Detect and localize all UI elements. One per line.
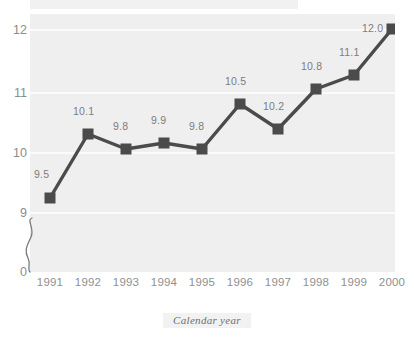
marker-1995 bbox=[197, 144, 208, 155]
data-label-1998: 10.8 bbox=[301, 60, 322, 72]
marker-1994 bbox=[159, 138, 170, 149]
line-chart-figure: 12 11 10 9 0 9.5 10.1 9.8 9.9 9.8 10.5 1… bbox=[0, 0, 414, 339]
x-tick-label-2000: 2000 bbox=[370, 276, 414, 288]
marker-1998 bbox=[311, 84, 322, 95]
data-label-1994: 9.9 bbox=[151, 114, 166, 126]
x-axis-title-text: Calendar year bbox=[163, 313, 251, 328]
data-label-2000: 12.0 bbox=[362, 22, 383, 34]
data-label-1993: 9.8 bbox=[113, 120, 128, 132]
data-label-1992: 10.1 bbox=[73, 105, 94, 117]
data-label-1996: 10.5 bbox=[225, 75, 246, 87]
data-label-1999: 11.1 bbox=[339, 46, 359, 58]
y-tick-label-12: 12 bbox=[3, 23, 27, 37]
data-label-1995: 9.8 bbox=[189, 120, 204, 132]
marker-1996 bbox=[235, 99, 246, 110]
x-axis-title: Calendar year bbox=[0, 310, 414, 328]
data-label-1997: 10.2 bbox=[263, 100, 284, 112]
y-tick-label-10: 10 bbox=[3, 146, 27, 160]
marker-1993 bbox=[121, 144, 132, 155]
marker-1999 bbox=[349, 70, 360, 81]
marker-2000 bbox=[387, 24, 396, 35]
marker-1992 bbox=[83, 129, 94, 140]
y-tick-label-11: 11 bbox=[3, 86, 27, 100]
marker-1997 bbox=[273, 124, 284, 135]
data-label-1991: 9.5 bbox=[34, 168, 49, 180]
marker-1991 bbox=[45, 193, 56, 204]
